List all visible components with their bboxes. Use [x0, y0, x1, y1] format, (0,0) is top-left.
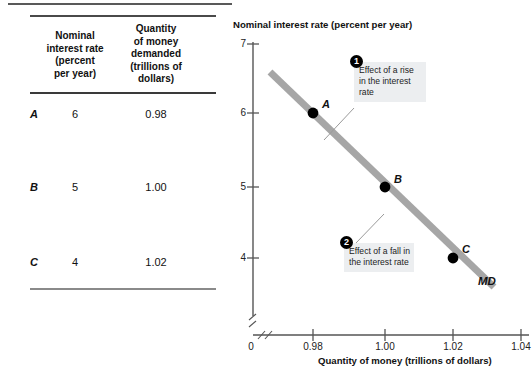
x-axis-title: Quantity of money (trillions of dollars)	[318, 355, 492, 366]
cell-rate-b: 5	[42, 181, 108, 193]
y-tick-label-4: 4	[232, 252, 246, 263]
table-top-rule	[8, 3, 232, 5]
data-point-b	[380, 182, 391, 193]
point-label-b: B	[394, 173, 402, 185]
annotation-callout-1: Effect of a rise in the interest rate	[354, 62, 426, 102]
callout-2-leader-line	[356, 214, 384, 243]
md-curve-label: MD	[478, 275, 496, 287]
cell-quantity-c: 1.02	[118, 256, 194, 268]
origin-label: 0	[244, 341, 258, 352]
annotation-badge-2: 2	[340, 236, 353, 249]
point-label-c: C	[462, 243, 470, 255]
table-bottom-rule	[30, 288, 216, 290]
table-header-rule	[30, 15, 216, 17]
x-tick-label-104: 1.04	[501, 341, 532, 352]
cell-rate-a: 6	[42, 108, 108, 120]
y-tick-label-5: 5	[232, 181, 246, 192]
cell-quantity-b: 1.00	[118, 181, 194, 193]
x-tick-label-102: 1.02	[433, 341, 473, 352]
column-header-quantity: Quantity of money demanded (trillions of…	[118, 23, 194, 86]
x-tick-label-100: 1.00	[365, 341, 405, 352]
point-label-a: A	[322, 98, 330, 110]
annotation-badge-1: 1	[350, 55, 363, 68]
y-tick-label-7: 7	[232, 38, 246, 49]
table-header-bottom-rule	[30, 92, 216, 94]
x-tick-label-098: 0.98	[293, 341, 333, 352]
cell-rate-c: 4	[42, 256, 108, 268]
column-header-interest-rate: Nominal interest rate (percent per year)	[42, 30, 108, 80]
money-demand-chart: Nominal interest rate (percent per year)	[232, 0, 532, 376]
data-table-panel: Nominal interest rate (percent per year)…	[0, 0, 232, 300]
data-point-a	[308, 108, 319, 119]
cell-quantity-a: 0.98	[118, 108, 194, 120]
y-tick-label-6: 6	[232, 107, 246, 118]
annotation-callout-2: Effect of a fall in the interest rate	[344, 243, 414, 272]
data-point-c	[448, 253, 459, 264]
chart-plot-area	[232, 0, 532, 376]
